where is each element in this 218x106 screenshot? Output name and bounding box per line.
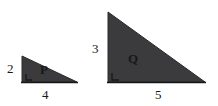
triangle-p-shape (22, 56, 77, 82)
triangle-p-base-label: 4 (42, 88, 49, 101)
triangle-q-name-label: Q (128, 52, 138, 65)
triangle-q-shape (108, 12, 205, 82)
triangle-p (21, 56, 78, 83)
triangle-p-name-label: P (40, 63, 48, 76)
triangle-q-base-label: 5 (155, 88, 162, 101)
triangle-q-height-label: 3 (92, 42, 99, 55)
triangles-canvas (0, 0, 218, 106)
triangle-q (107, 12, 206, 83)
geometry-figure: 2 4 P 3 5 Q (0, 0, 218, 106)
triangle-p-height-label: 2 (7, 62, 14, 75)
